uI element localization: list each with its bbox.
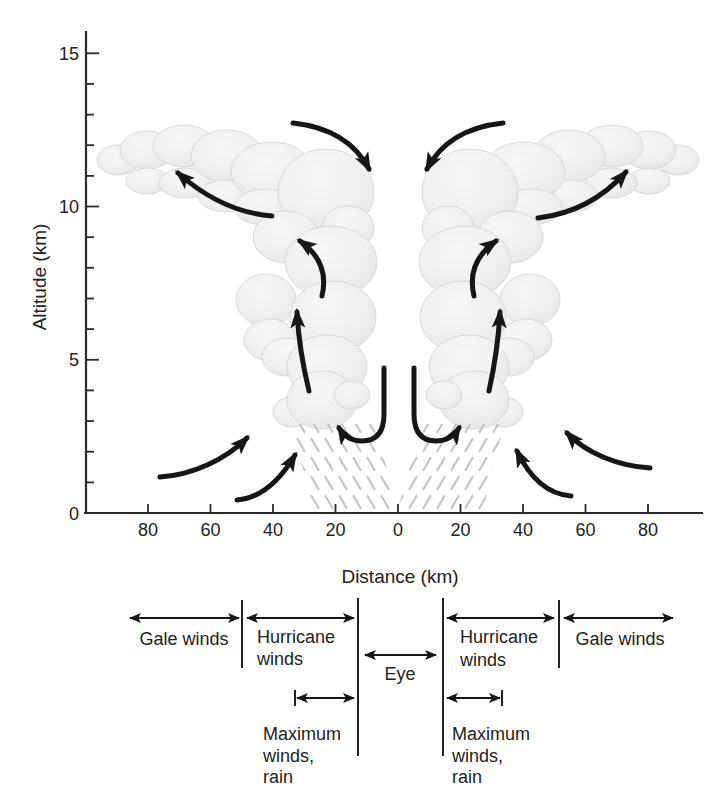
inflow-arrow-left-outer (160, 438, 247, 477)
y-tick-label: 10 (59, 197, 79, 217)
legend-label-hurricane-left-line2: winds (256, 649, 303, 669)
inflow-arrow-left-inner (237, 455, 295, 500)
legend-label-gale-right: Gale winds (575, 629, 664, 649)
legend-label-hurricane-right-line2: winds (459, 650, 506, 670)
inflow-arrow-right-outer (567, 433, 650, 468)
legend-label-max-winds-left-line2: winds, (262, 746, 314, 766)
legend-label-hurricane-left-line1: Hurricane (257, 627, 335, 647)
eyewall-cloud-left (97, 125, 377, 429)
y-axis-title: Altitude (km) (29, 224, 50, 331)
x-tick-label: 40 (263, 520, 283, 540)
cloud-puff (334, 381, 370, 409)
x-tick-label: 20 (450, 520, 470, 540)
legend-label-gale-left: Gale winds (139, 629, 228, 649)
legend-label-max-winds-right-line3: rain (452, 767, 482, 787)
y-tick-label: 5 (69, 350, 79, 370)
cloud-puff (500, 274, 560, 326)
legend-label-max-winds-right-line2: winds, (451, 746, 503, 766)
legend-label-max-winds-left-line1: Maximum (263, 724, 341, 744)
x-tick-label: 60 (575, 520, 595, 540)
eyewall-cloud-right (419, 125, 699, 429)
x-tick-label: 60 (200, 520, 220, 540)
x-tick-label: 20 (325, 520, 345, 540)
hurricane-cross-section-diagram: 15 10 5 0 80 60 40 20 0 20 40 60 80 Alti… (0, 0, 728, 801)
cloud-puff (426, 381, 462, 409)
x-tick-label: 80 (138, 520, 158, 540)
x-tick-label: 40 (513, 520, 533, 540)
inflow-arrow-right-inner (517, 451, 571, 496)
cloud-puff (236, 274, 296, 326)
legend-label-hurricane-right-line1: Hurricane (460, 627, 538, 647)
x-axis-title: Distance (km) (341, 566, 458, 587)
x-tick-label: 0 (393, 520, 403, 540)
y-tick-label: 0 (69, 504, 79, 524)
diagram-canvas: 15 10 5 0 80 60 40 20 0 20 40 60 80 Alti… (0, 0, 728, 801)
y-tick-label: 15 (59, 44, 79, 64)
legend-label-max-winds-left-line3: rain (263, 767, 293, 787)
legend-label-max-winds-right-line1: Maximum (452, 724, 530, 744)
x-tick-label: 80 (638, 520, 658, 540)
legend-label-eye: Eye (384, 664, 415, 684)
